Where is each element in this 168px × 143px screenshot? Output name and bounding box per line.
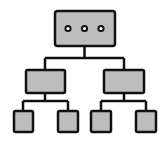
leaf-node-4 (136, 111, 156, 132)
leaf-node-1 (14, 111, 33, 132)
child-node-left (26, 70, 65, 93)
org-chart-diagram (0, 0, 168, 143)
child-node-right (104, 70, 144, 93)
leaf-node-3 (91, 111, 111, 132)
leaf-node-2 (58, 111, 78, 132)
